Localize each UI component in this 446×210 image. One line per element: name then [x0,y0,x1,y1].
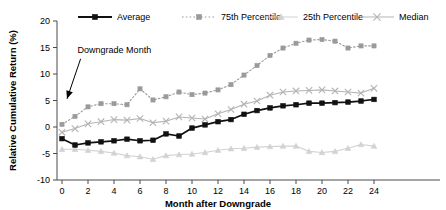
chart-container: Average75th Percentile25th PercentileMed… [0,0,446,210]
x-axis-ticks: 024681012141618202224 [59,180,379,196]
x-tick-label: 8 [163,186,168,196]
legend-marker-sample [93,15,98,20]
x-tick-label: 10 [187,186,197,196]
x-tick-label: 14 [239,186,249,196]
y-tick-label: 20 [40,16,50,26]
x-tick-label: 16 [265,186,275,196]
y-tick-label: -5 [42,149,50,159]
x-tick-label: 6 [137,186,142,196]
x-tick-label: 0 [59,186,64,196]
relative-cumulative-return-line-chart: Average75th Percentile25th PercentileMed… [0,0,446,210]
chart-series-group [59,37,377,161]
y-tick-label: 15 [40,43,50,53]
x-tick-label: 4 [111,186,116,196]
y-axis-ticks: -10-505101520 [37,16,57,185]
legend-item-average[interactable]: Average [78,12,150,22]
x-tick-label: 2 [85,186,90,196]
legend-label: Average [117,12,150,22]
y-tick-label: 0 [45,122,50,132]
legend-label: 25th Percentile [303,12,363,22]
downgrade-month-annotation-label: Downgrade Month [78,45,152,55]
x-tick-label: 12 [213,186,223,196]
legend-marker-sample [197,15,202,20]
series-median [59,85,377,135]
y-axis-title: Relative Cumulative Return (%) [7,30,18,171]
y-tick-label: 10 [40,69,50,79]
x-tick-label: 18 [291,186,301,196]
legend-item-median[interactable]: Median [360,12,429,22]
x-tick-label: 22 [343,186,353,196]
x-tick-label: 24 [369,186,379,196]
chart-legend: Average75th Percentile25th PercentileMed… [78,12,429,22]
y-tick-label: -10 [37,175,50,185]
downgrade-month-arrowhead [66,90,72,99]
legend-label: Median [399,12,429,22]
x-tick-label: 20 [317,186,327,196]
series-average [60,97,377,147]
y-tick-label: 5 [45,96,50,106]
x-axis-title: Month after Downgrade [165,198,271,209]
series-25th-percentile [59,142,377,162]
